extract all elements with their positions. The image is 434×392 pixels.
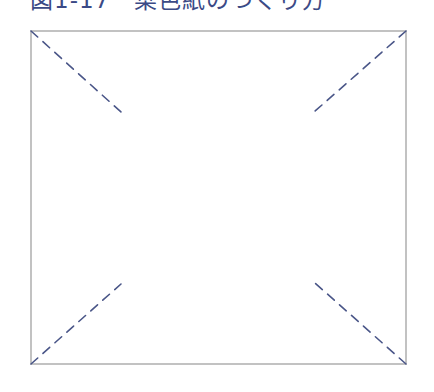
paper-square-outline bbox=[31, 31, 406, 364]
fold-line-top-right bbox=[314, 31, 406, 112]
fold-line-bottom-right bbox=[315, 283, 406, 364]
fold-line-top-left bbox=[31, 31, 121, 112]
fold-line-bottom-left bbox=[31, 284, 121, 364]
paper-diagram bbox=[0, 0, 434, 392]
fold-lines bbox=[31, 31, 406, 364]
